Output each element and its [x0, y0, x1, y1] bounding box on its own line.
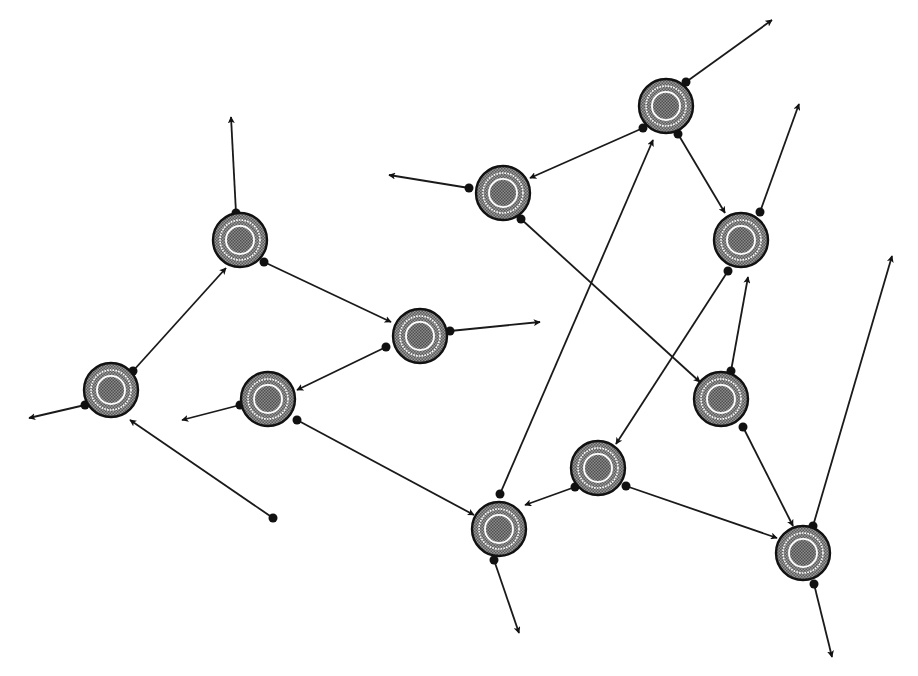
arrow-line	[29, 405, 85, 418]
node-i	[571, 441, 625, 495]
edge-arrow	[809, 256, 893, 531]
arrow-line	[530, 128, 643, 178]
node-core-icon	[729, 228, 753, 252]
arrow-line	[133, 268, 226, 371]
node-c	[393, 309, 447, 363]
edge-arrow	[682, 20, 773, 87]
edge-arrow	[130, 420, 278, 523]
arrow-line	[626, 486, 777, 538]
node-k	[776, 526, 830, 580]
edge-origin-dot-icon	[810, 580, 819, 589]
node-core-icon	[791, 541, 815, 565]
node-d	[241, 372, 295, 426]
node-core-icon	[491, 181, 515, 205]
edge-arrow	[739, 423, 794, 527]
node-core-icon	[99, 378, 123, 402]
edge-arrow	[297, 343, 391, 391]
edge-layer	[29, 20, 892, 657]
node-core-icon	[586, 456, 610, 480]
edge-origin-dot-icon	[756, 208, 765, 217]
node-core-icon	[408, 324, 432, 348]
edge-arrow	[810, 580, 833, 658]
arrow-line	[450, 322, 540, 331]
node-b	[84, 363, 138, 417]
node-core-icon	[487, 517, 511, 541]
edge-arrow	[293, 416, 475, 516]
node-core-icon	[256, 387, 280, 411]
edge-origin-dot-icon	[269, 514, 278, 523]
edge-arrow	[756, 104, 800, 217]
arrow-line	[525, 487, 575, 505]
edge-arrow	[525, 483, 580, 506]
edge-origin-dot-icon	[739, 423, 748, 432]
edge-origin-dot-icon	[496, 490, 505, 499]
edge-arrow	[622, 482, 778, 539]
arrow-line	[231, 117, 236, 213]
arrow-line	[760, 104, 799, 212]
arrow-line	[678, 134, 725, 213]
node-core-icon	[709, 387, 733, 411]
node-e	[476, 166, 530, 220]
edge-arrow	[182, 401, 245, 421]
arrow-line	[297, 420, 474, 515]
edge-arrow	[389, 175, 474, 193]
edge-arrow	[29, 401, 90, 419]
edge-arrow	[674, 130, 726, 214]
edge-arrow	[727, 277, 749, 376]
node-core-icon	[228, 228, 252, 252]
node-g	[714, 213, 768, 267]
arrow-line	[264, 262, 391, 322]
arrow-line	[731, 277, 748, 371]
edge-origin-dot-icon	[293, 416, 302, 425]
edge-arrow	[446, 322, 541, 336]
arrow-line	[813, 256, 892, 526]
edge-arrow	[260, 258, 392, 323]
node-core-icon	[654, 94, 678, 118]
arrow-line	[743, 427, 793, 526]
arrow-line	[297, 347, 386, 390]
edge-origin-dot-icon	[465, 184, 474, 193]
edge-arrow	[231, 117, 241, 218]
edge-origin-dot-icon	[382, 343, 391, 352]
node-a	[213, 213, 267, 267]
edge-arrow	[490, 556, 520, 634]
arrow-line	[521, 219, 700, 382]
arrow-line	[182, 405, 240, 420]
node-j	[472, 502, 526, 556]
node-h	[694, 372, 748, 426]
edge-origin-dot-icon	[724, 267, 733, 276]
edge-arrow	[530, 124, 648, 179]
node-f	[639, 79, 693, 133]
arrow-line	[389, 175, 469, 188]
network-diagram	[0, 0, 918, 676]
arrow-line	[494, 560, 519, 633]
arrow-line	[686, 20, 772, 82]
edge-arrow	[129, 268, 227, 376]
arrow-line	[130, 420, 273, 518]
arrow-line	[814, 584, 832, 657]
edge-origin-dot-icon	[622, 482, 631, 491]
